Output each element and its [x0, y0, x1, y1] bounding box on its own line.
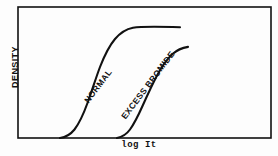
figure-background — [0, 0, 278, 156]
y-axis-title: DENSITY — [10, 31, 20, 103]
density-curve-figure: DENSITY log It NORMAL EXCESS BROMIDE — [0, 0, 278, 156]
plot-canvas — [0, 0, 278, 156]
x-axis-title: log It — [0, 140, 278, 150]
